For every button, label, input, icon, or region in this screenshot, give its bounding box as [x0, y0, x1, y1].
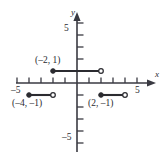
segment-left-closed-endpoint — [27, 93, 32, 98]
y-tick-label-5: 5 — [64, 24, 69, 34]
segment-left — [27, 93, 56, 98]
segment-right-open-endpoint — [123, 93, 128, 98]
point-label-2-minus1: (2, –1) — [88, 99, 113, 109]
x-tick-label-5: 5 — [135, 86, 140, 96]
segment-middle-closed-endpoint — [51, 69, 56, 74]
coordinate-plane-figure: y x 5 –5 –5 5 (–2, 1) (–4, –1) (2, –1) — [0, 0, 167, 160]
point-label-minus2-1: (–2, 1) — [35, 56, 60, 66]
y-tick-label-minus-5: –5 — [62, 133, 72, 143]
point-label-minus4-minus1: (–4, –1) — [12, 99, 42, 109]
x-axis-arrowhead — [147, 79, 156, 86]
x-axis-label: x — [155, 70, 159, 79]
segment-right-closed-endpoint — [99, 93, 104, 98]
segment-middle-open-endpoint — [99, 69, 104, 74]
segment-left-open-endpoint — [51, 93, 56, 98]
x-tick-label-minus-5: –5 — [11, 86, 21, 96]
y-axis-label: y — [71, 8, 75, 17]
graph-canvas — [0, 0, 167, 160]
segment-right — [99, 93, 128, 98]
